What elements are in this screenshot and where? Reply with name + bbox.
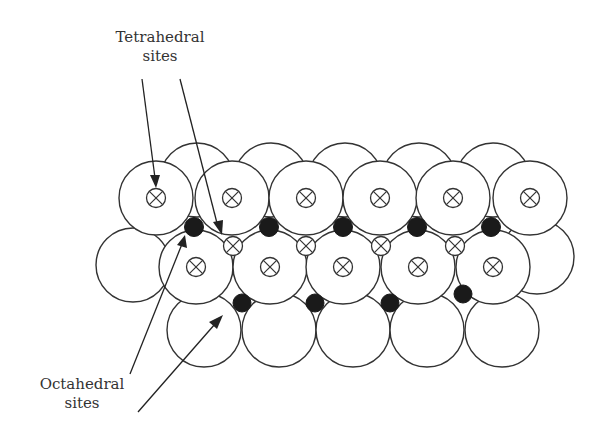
octahedral-label-line2: sites: [2, 394, 162, 413]
tetrahedral-label-line1: Tetrahedral: [80, 28, 240, 47]
bottom-row-atoms: [167, 293, 539, 367]
tetrahedral-sites-label: Tetrahedral sites: [80, 28, 240, 66]
octahedral-sites-label: Octahedral sites: [2, 375, 162, 413]
tetrahedral-label-line2: sites: [80, 47, 240, 66]
octahedral-label-line1: Octahedral: [2, 375, 162, 394]
